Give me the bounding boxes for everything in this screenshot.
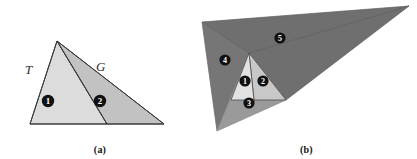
panel-b: 5 4 1 2 3 (b) [196, 0, 417, 159]
panel-b-marker-2: 2 [257, 75, 268, 86]
panel-b-marker-4: 4 [219, 54, 230, 65]
panel-a-caption: (a) [0, 144, 200, 155]
panel-a-marker-2-text: 2 [98, 96, 103, 106]
panel-a-label-T: T [25, 62, 33, 77]
panel-b-diagram: 5 4 1 2 3 [196, 0, 417, 150]
panel-b-marker-1: 1 [239, 75, 250, 86]
figure-root: T G 1 2 (a) [0, 0, 417, 159]
panel-b-caption: (b) [196, 144, 417, 155]
panel-b-marker-5-text: 5 [278, 34, 282, 43]
panel-a-diagram: T G 1 2 [0, 0, 200, 150]
panel-a: T G 1 2 (a) [0, 0, 200, 159]
panel-a-marker-2: 2 [94, 95, 106, 107]
panel-a-label-G: G [96, 59, 106, 74]
panel-b-marker-1-text: 1 [243, 77, 247, 86]
panel-b-marker-2-text: 2 [261, 77, 265, 86]
panel-b-marker-3-text: 3 [247, 99, 251, 108]
panel-a-marker-1: 1 [42, 95, 54, 107]
panel-b-marker-4-text: 4 [223, 56, 227, 65]
panel-b-marker-3: 3 [243, 97, 254, 108]
panel-a-marker-1-text: 1 [46, 96, 51, 106]
panel-b-marker-5: 5 [274, 32, 285, 43]
